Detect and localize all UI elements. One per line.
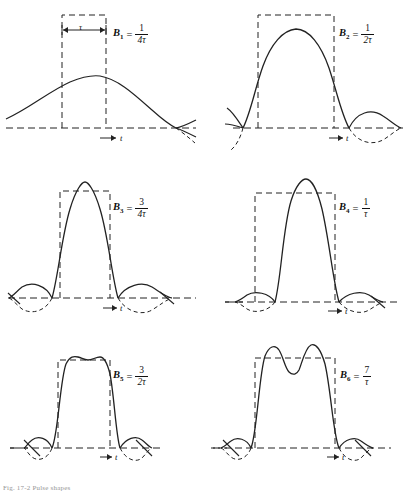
bandwidth-symbol-b1: B1 bbox=[113, 27, 124, 41]
response-curve bbox=[275, 179, 339, 302]
reference-pulse-rect bbox=[60, 191, 110, 298]
left-lobe bbox=[221, 439, 251, 448]
equals-sign: = bbox=[353, 203, 359, 214]
equals-sign: = bbox=[127, 371, 133, 382]
bandwidth-label-b6: B6 = 7 τ bbox=[340, 366, 371, 387]
bandwidth-symbol-b4: B4 bbox=[339, 201, 350, 215]
bandwidth-fraction-b4: 1 τ bbox=[361, 198, 370, 219]
panel-b5: t B5 = 3 2τ bbox=[0, 330, 202, 493]
right-lobe bbox=[120, 438, 152, 448]
left-lobe-mirror bbox=[235, 302, 275, 311]
panel-b1-plot bbox=[0, 0, 202, 164]
bandwidth-symbol-b6: B6 bbox=[340, 369, 351, 383]
response-tail bbox=[176, 128, 196, 137]
panel-b6: t B6 = 7 τ bbox=[203, 330, 405, 493]
panel-b4: t B4 = 1 τ bbox=[203, 165, 405, 329]
panel-b3: t B3 = 3 4τ bbox=[0, 165, 202, 329]
time-axis-label: t bbox=[120, 133, 122, 143]
right-lobe-mirror bbox=[118, 298, 172, 313]
panel-b6-plot bbox=[203, 330, 405, 493]
figure-caption: Fig. 17-2 Pulse shapes bbox=[3, 484, 70, 492]
tau-label: τ bbox=[79, 22, 82, 32]
equals-sign: = bbox=[127, 29, 133, 40]
panel-b4-plot bbox=[203, 165, 405, 329]
response-curve bbox=[243, 29, 349, 128]
bandwidth-symbol-b5: B5 bbox=[113, 369, 124, 383]
time-axis-label: t bbox=[120, 303, 122, 313]
bandwidth-label-b2: B2 = 1 2τ bbox=[339, 24, 374, 45]
right-lobe-mirror bbox=[120, 448, 152, 460]
bandwidth-fraction-b1: 1 4τ bbox=[135, 24, 147, 45]
tau-dimension-arrow bbox=[62, 25, 106, 35]
time-axis-label: t bbox=[345, 306, 347, 316]
bandwidth-fraction-b3: 3 4τ bbox=[135, 198, 147, 219]
reference-pulse-rect bbox=[255, 358, 335, 448]
left-lobe-mirror bbox=[231, 128, 243, 150]
right-lobe-mirror bbox=[349, 128, 401, 143]
time-axis-arrow bbox=[327, 454, 339, 460]
reference-pulse-rect bbox=[58, 360, 110, 448]
time-axis-arrow bbox=[103, 305, 117, 311]
panel-b2: t B2 = 1 2τ bbox=[203, 0, 405, 164]
time-axis-arrow bbox=[329, 135, 343, 141]
response-curve bbox=[52, 182, 118, 298]
bandwidth-label-b3: B3 = 3 4τ bbox=[113, 198, 148, 219]
bandwidth-label-b5: B5 = 3 2τ bbox=[113, 366, 148, 387]
figure-pulse-response: τ t B1 = 1 4τ t bbox=[0, 0, 405, 493]
panel-b5-plot bbox=[0, 330, 202, 493]
time-axis-label: t bbox=[342, 452, 344, 462]
reference-pulse-rect bbox=[62, 15, 106, 128]
equals-sign: = bbox=[354, 371, 360, 382]
time-axis-arrow bbox=[100, 454, 112, 460]
panel-b3-plot bbox=[0, 165, 202, 329]
time-axis-arrow bbox=[328, 308, 342, 314]
right-lobe bbox=[339, 439, 373, 448]
bandwidth-fraction-b6: 7 τ bbox=[362, 366, 371, 387]
response-curve bbox=[251, 345, 339, 448]
bandwidth-fraction-b2: 1 2τ bbox=[361, 24, 373, 45]
panel-b1: τ t B1 = 1 4τ bbox=[0, 0, 202, 164]
equals-sign: = bbox=[127, 203, 133, 214]
time-axis-label: t bbox=[346, 133, 348, 143]
reference-pulse-rect bbox=[258, 15, 334, 128]
time-axis-arrow bbox=[100, 135, 116, 141]
bandwidth-label-b1: B1 = 1 4τ bbox=[113, 24, 148, 45]
response-curve bbox=[6, 76, 176, 128]
equals-sign: = bbox=[353, 29, 359, 40]
bandwidth-symbol-b2: B2 bbox=[339, 27, 350, 41]
bandwidth-label-b4: B4 = 1 τ bbox=[339, 198, 370, 219]
panel-b2-plot bbox=[203, 0, 405, 164]
reference-pulse-rect bbox=[255, 193, 335, 302]
response-tail-upper bbox=[176, 120, 196, 128]
time-axis-label: t bbox=[115, 452, 117, 462]
bandwidth-symbol-b3: B3 bbox=[113, 201, 124, 215]
left-lobe bbox=[9, 284, 52, 298]
right-lobe bbox=[349, 112, 401, 128]
bandwidth-fraction-b5: 3 2τ bbox=[135, 366, 147, 387]
left-lobe bbox=[24, 438, 52, 448]
